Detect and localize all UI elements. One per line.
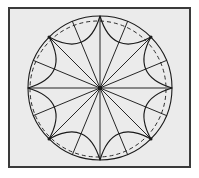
spoke-14 <box>100 37 151 88</box>
spoke-2 <box>100 88 151 139</box>
arc-node-1 <box>47 137 50 140</box>
center-point <box>98 86 102 90</box>
spoke-6 <box>49 88 100 139</box>
figure-container <box>0 0 199 178</box>
arc-node-0 <box>149 137 152 140</box>
spoke-10 <box>49 37 100 88</box>
arc-node-2 <box>47 35 50 38</box>
center-hub <box>98 86 102 90</box>
rosette-diagram <box>0 0 199 178</box>
arc-node-3 <box>149 35 152 38</box>
